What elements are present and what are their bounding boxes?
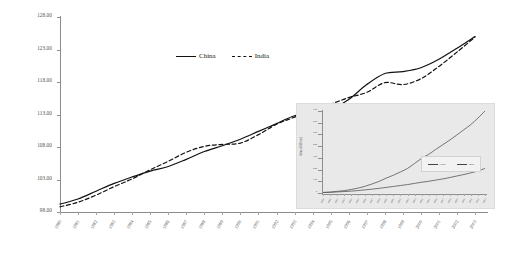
x-axis-tick-label: 1993: [288, 219, 297, 229]
inset-x-axis-tick-mark: [351, 194, 352, 196]
x-axis-tick-mark: [96, 212, 97, 215]
x-axis-tick-mark: [277, 212, 278, 215]
inset-x-axis-tick-label: 2001: [468, 198, 473, 204]
x-axis-tick-mark: [421, 212, 422, 215]
legend-label-china: China: [199, 52, 216, 60]
inset-x-axis-tick-label: 1984: [348, 198, 353, 204]
x-axis-tick-mark: [349, 212, 350, 215]
inset-series-line-india: [323, 168, 485, 192]
x-axis-tick-label: 1989: [216, 219, 225, 229]
inset-x-axis-tick-label: 1980: [320, 198, 325, 204]
inset-chart-legend: China India: [421, 156, 481, 172]
x-axis-tick-label: 1997: [360, 219, 369, 229]
x-axis-tick-mark: [258, 212, 259, 215]
x-axis-tick-label: 1998: [378, 219, 387, 229]
inset-x-axis-tick-mark: [386, 194, 387, 196]
x-axis-tick-label: 1984: [126, 219, 135, 229]
inset-x-axis-tick-label: 1992: [405, 198, 410, 204]
inset-y-axis-tick: 100: [318, 181, 322, 182]
inset-x-axis-tick-label: 1999: [454, 198, 459, 204]
x-axis-tick-mark: [60, 212, 61, 215]
x-axis-tick-label: 1995: [324, 219, 333, 229]
y-axis-tick-label: 128.00: [37, 12, 52, 18]
inset-x-axis-tick-label: 2000: [461, 198, 466, 204]
inset-x-axis-tick-label: 1997: [440, 198, 445, 204]
x-axis-tick-label: 1980: [54, 219, 63, 229]
legend-line-solid-icon: [176, 56, 196, 57]
inset-chart: Value (US$ mn) 7006005004003002001000 19…: [296, 103, 495, 209]
x-axis-tick-mark: [295, 212, 296, 215]
x-axis-tick-mark: [475, 212, 476, 215]
inset-x-axis-tick-mark: [436, 194, 437, 196]
inset-x-axis-tick-mark: [450, 194, 451, 196]
inset-x-axis-tick-label: 2002: [475, 198, 480, 204]
x-axis-tick-label: 2000: [414, 219, 423, 229]
y-axis-tick-label: 118.00: [37, 77, 52, 83]
x-axis-tick-label: 1983: [108, 219, 117, 229]
inset-x-axis-tick-mark: [358, 194, 359, 196]
x-axis-tick-label: 1999: [396, 219, 405, 229]
inset-legend-label-india: India: [469, 163, 474, 166]
inset-x-axis-tick-mark: [393, 194, 394, 196]
inset-x-axis-tick-label: 1996: [433, 198, 438, 204]
y-axis-tick-label: 98.00: [40, 207, 52, 213]
x-axis-tick-label: 2001: [432, 219, 441, 229]
inset-legend-item-china: China: [428, 163, 446, 166]
inset-legend-line-icon: [428, 164, 438, 165]
inset-plot-area: [323, 111, 485, 193]
inset-x-axis-tick-label: 1987: [369, 198, 374, 204]
inset-legend-item-india: India: [457, 163, 474, 166]
inset-x-axis-tick-label: 1986: [362, 198, 367, 204]
x-axis-tick-label: 1986: [162, 219, 171, 229]
legend-line-dashed-icon: [232, 56, 252, 57]
inset-x-axis-tick-mark: [478, 194, 479, 196]
inset-legend-label-china: China: [439, 163, 445, 166]
inset-x-axis-tick-label: 1995: [426, 198, 431, 204]
legend-item-china: China: [176, 52, 216, 60]
inset-y-axis-tick-label: 200: [313, 167, 317, 170]
inset-x-axis-tick-label: 1990: [391, 198, 396, 204]
inset-x-axis-tick-label: 1991: [398, 198, 403, 204]
x-axis-tick-mark: [403, 212, 404, 215]
inset-x-axis-tick-label: 1993: [412, 198, 417, 204]
inset-x-axis-tick-mark: [443, 194, 444, 196]
inset-x-axis-tick-label: 2003: [482, 198, 487, 204]
inset-y-axis-tick: 700: [318, 111, 322, 112]
x-axis-tick-mark: [439, 212, 440, 215]
inset-x-axis-tick-mark: [330, 194, 331, 196]
inset-x-axis-tick-label: 1983: [341, 198, 346, 204]
chart-canvas: Index Value (1980=100) 128.00123.00118.0…: [0, 0, 508, 256]
inset-series-line-china: [323, 111, 485, 192]
inset-x-axis-tick-mark: [323, 194, 324, 196]
inset-x-axis-tick-mark: [400, 194, 401, 196]
x-axis-tick-label: 1985: [144, 219, 153, 229]
inset-y-axis-tick: 500: [318, 134, 322, 135]
inset-x-axis-line: [322, 194, 487, 195]
x-axis-tick-mark: [186, 212, 187, 215]
inset-x-axis-tick-mark: [457, 194, 458, 196]
inset-x-axis-tick-label: 1988: [377, 198, 382, 204]
inset-x-axis-tick-label: 1998: [447, 198, 452, 204]
inset-x-axis-tick-label: 1981: [327, 198, 332, 204]
inset-x-axis-tick-mark: [408, 194, 409, 196]
inset-y-axis-tick-label: 300: [313, 155, 317, 158]
inset-x-axis-tick-mark: [422, 194, 423, 196]
x-axis-tick-label: 1992: [270, 219, 279, 229]
x-axis-tick-label: 1994: [306, 219, 315, 229]
x-axis-tick-label: 2003: [469, 219, 478, 229]
x-axis-tick-label: 1982: [90, 219, 99, 229]
inset-y-axis-tick: 0: [318, 193, 322, 194]
legend-item-india: India: [232, 52, 269, 60]
x-axis-tick-mark: [78, 212, 79, 215]
x-axis-tick-mark: [204, 212, 205, 215]
y-axis-tick-label: 113.00: [37, 110, 52, 116]
x-axis-tick-mark: [114, 212, 115, 215]
inset-legend-line-icon-2: [457, 164, 467, 165]
x-axis-tick-label: 1987: [180, 219, 189, 229]
inset-y-axis-tick-label: 0: [316, 190, 317, 193]
x-axis-tick-mark: [457, 212, 458, 215]
inset-y-axis-title: Value (US$ mn): [300, 137, 303, 156]
x-axis-tick-mark: [240, 212, 241, 215]
y-axis-tick-label: 108.00: [37, 142, 52, 148]
inset-y-axis-tick-label: 500: [313, 131, 317, 134]
